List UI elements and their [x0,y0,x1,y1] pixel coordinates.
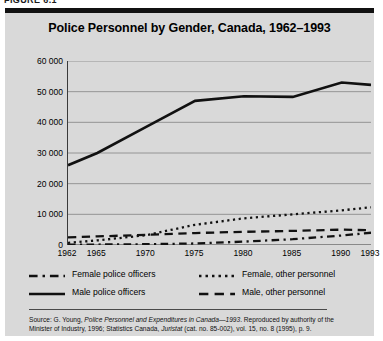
source-line-1-prefix: Source: G. Young, [29,316,84,323]
x-axis-tick-label: 1975 [185,248,204,258]
legend-swatch-solid [29,286,65,298]
chart-title: Police Personnel by Gender, Canada, 1962… [5,21,374,35]
x-axis-tick-label: 1965 [87,248,106,258]
series-line [68,230,371,238]
panel-inner: Police Personnel by Gender, Canada, 1962… [5,13,374,336]
source-line-2: Minister of Industry, 1996; Statistics C… [29,325,359,334]
figure-container: FIGURE 6.1 Police Personnel by Gender, C… [0,0,383,341]
plot-area [67,61,371,245]
legend-swatch-dotted [199,268,235,280]
source-line-1: Source: G. Young, Police Personnel and E… [29,316,359,325]
chart-legend: Female police officersFemale, other pers… [29,267,359,303]
figure-panel: Police Personnel by Gender, Canada, 1962… [5,8,374,336]
source-note: Source: G. Young, Police Personnel and E… [29,316,359,333]
x-axis-tick-label: 1993 [361,248,380,258]
legend-item: Male, other personnel [199,285,325,299]
source-line-2-suffix: (cat. no. 85-002), vol. 15, no. 8 (1995)… [182,325,311,332]
y-axis-tick-label: 50 000 [9,87,63,97]
legend-label: Male, other personnel [242,287,325,297]
legend-label: Female police officers [72,269,155,279]
series-line [68,207,371,243]
series-line [68,233,371,245]
y-axis-tick-label: 20 000 [9,179,63,189]
legend-swatch-dash-dot [29,268,65,280]
source-line-2-title: Juristat [161,325,182,332]
legend-item: Female police officers [29,267,155,281]
source-divider [29,309,327,310]
legend-item: Male police officers [29,285,145,299]
source-line-2-prefix: Minister of Industry, 1996; Statistics C… [29,325,161,332]
y-axis-tick-label: 40 000 [9,117,63,127]
legend-swatch-dashed [199,286,235,298]
x-axis-tick-label: 1980 [233,248,252,258]
x-axis-tick-label: 1990 [331,248,350,258]
figure-number-label: FIGURE 6.1 [4,0,57,4]
y-axis-tick-labels: 010 00020 00030 00040 00050 00060 000 [5,61,63,245]
legend-item: Female, other personnel [199,267,335,281]
y-axis-tick-label: 0 [9,240,63,250]
plot-svg [68,61,371,245]
x-axis-tick-label: 1970 [136,248,155,258]
source-line-1-title: Police Personnel and Expenditures in Can… [84,316,240,323]
y-axis-tick-label: 30 000 [9,148,63,158]
x-axis-tick-labels: 19621965197019751980198519901993 [67,248,370,262]
y-axis-tick-label: 60 000 [9,56,63,66]
legend-label: Female, other personnel [242,269,335,279]
x-axis-tick-label: 1985 [282,248,301,258]
legend-label: Male police officers [72,287,145,297]
y-axis-tick-label: 10 000 [9,209,63,219]
source-line-1-suffix: . Reproduced by authority of the [240,316,334,323]
x-axis-tick-label: 1962 [58,248,77,258]
